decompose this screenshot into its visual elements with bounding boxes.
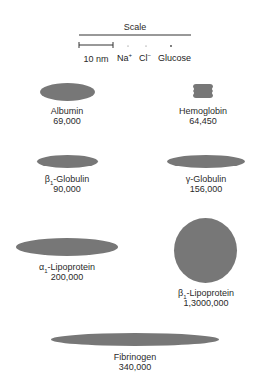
alpha1-lipoprotein-label: α1-Lipoprotein 200,000 bbox=[17, 262, 117, 282]
beta1-lipoprotein-shape bbox=[174, 218, 237, 283]
gamma-globulin-label: γ-Globulin 156,000 bbox=[156, 174, 256, 194]
beta1-lipoprotein-label: β1-Lipoprotein 1,3000,000 bbox=[156, 288, 256, 308]
beta1-globulin-label: β1-Globulin 90,000 bbox=[17, 174, 117, 194]
gamma-globulin-shape bbox=[167, 155, 245, 168]
hemoglobin-label: Hemoglobin 64,450 bbox=[153, 106, 253, 126]
beta1-globulin-shape bbox=[37, 155, 98, 168]
fibrinogen-label: Fibrinogen 340,000 bbox=[85, 352, 185, 372]
alpha1-lipoprotein-shape bbox=[16, 238, 118, 256]
fibrinogen-shape bbox=[51, 333, 219, 346]
